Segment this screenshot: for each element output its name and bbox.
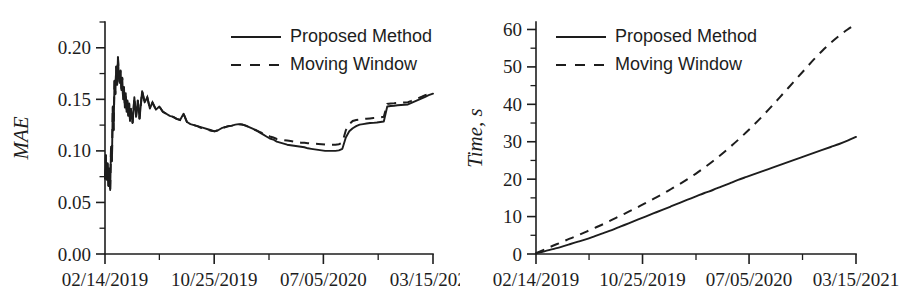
time-chart-panel: 010203040506002/14/201910/25/201907/05/2… — [460, 0, 921, 306]
y-tick-label: 0.15 — [58, 89, 91, 110]
y-tick-label: 30 — [503, 131, 522, 152]
mae-chart-panel: 0.000.050.100.150.2002/14/201910/25/2019… — [0, 0, 460, 306]
legend-label: Proposed Method — [290, 26, 432, 46]
y-tick-label: 40 — [503, 94, 522, 115]
y-axis-title: Time, s — [463, 108, 487, 168]
y-tick-label: 0.00 — [58, 244, 91, 265]
time-chart-svg: 010203040506002/14/201910/25/201907/05/2… — [460, 0, 921, 306]
y-axis-title: MAE — [9, 116, 33, 160]
legend-label: Moving Window — [290, 54, 418, 74]
y-tick-label: 10 — [503, 206, 522, 227]
y-tick-label: 0 — [513, 244, 523, 265]
y-tick-label: 0.20 — [58, 37, 91, 58]
series-dashed — [105, 57, 433, 190]
mae-chart-svg: 0.000.050.100.150.2002/14/201910/25/2019… — [0, 0, 460, 306]
x-tick-label: 07/05/2020 — [280, 269, 367, 290]
series-solid — [105, 57, 433, 190]
y-tick-label: 0.05 — [58, 192, 91, 213]
y-tick-label: 20 — [503, 169, 522, 190]
y-tick-label: 60 — [503, 19, 522, 40]
figure-container: 0.000.050.100.150.2002/14/201910/25/2019… — [0, 0, 921, 306]
legend-label: Moving Window — [615, 54, 743, 74]
x-tick-label: 03/15/2021 — [390, 269, 460, 290]
y-tick-label: 50 — [503, 56, 522, 77]
legend-label: Proposed Method — [615, 26, 757, 46]
x-tick-label: 10/25/2019 — [171, 269, 258, 290]
x-tick-label: 03/15/2021 — [813, 269, 900, 290]
x-tick-label: 07/05/2020 — [706, 269, 793, 290]
y-tick-label: 0.10 — [58, 140, 91, 161]
x-tick-label: 02/14/2019 — [493, 269, 580, 290]
series-solid — [536, 137, 856, 253]
x-tick-label: 10/25/2019 — [599, 269, 686, 290]
x-tick-label: 02/14/2019 — [62, 269, 149, 290]
